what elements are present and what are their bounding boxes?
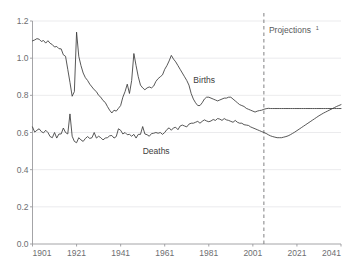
series-line-deaths: [33, 105, 342, 143]
series-label-deaths: Deaths: [143, 146, 170, 156]
y-tick-label: 0.0: [17, 239, 29, 249]
x-tick-label: 1941: [111, 248, 130, 258]
projection-label: Projections: [269, 25, 311, 35]
projection-footnote-marker: 1: [316, 25, 319, 31]
x-tick-label: 2041: [322, 248, 341, 258]
y-tick-label: 0.4: [17, 165, 29, 175]
y-tick-label: 0.6: [17, 128, 29, 138]
x-tick-label: 2021: [287, 248, 306, 258]
x-tick-label: 1921: [67, 248, 86, 258]
x-tick-label: 1961: [155, 248, 174, 258]
series-line-births: [33, 32, 342, 113]
series-group: [33, 32, 342, 143]
chart-container: 0.00.20.40.60.81.01.2 190119211941196119…: [0, 0, 349, 270]
x-tick-label: 2001: [243, 248, 262, 258]
series-label-births: Births: [193, 75, 215, 85]
y-tick-label: 0.2: [17, 202, 29, 212]
projection-divider-group: Projections 1: [264, 13, 319, 244]
gridlines-group: [33, 21, 342, 207]
x-tick-label: 1981: [199, 248, 218, 258]
x-tick-label: 1901: [33, 248, 52, 258]
x-tick-labels-group: 19011921194119611981200120212041: [33, 244, 342, 258]
y-tick-label: 1.0: [17, 53, 29, 63]
line-chart: 0.00.20.40.60.81.01.2 190119211941196119…: [0, 0, 349, 270]
y-tick-labels-group: 0.00.20.40.60.81.01.2: [17, 16, 33, 249]
y-tick-label: 1.2: [17, 16, 29, 26]
series-labels-group: Births Deaths: [143, 75, 215, 156]
y-tick-label: 0.8: [17, 90, 29, 100]
